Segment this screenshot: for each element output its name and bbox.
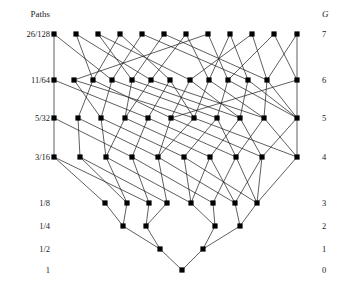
graph-edge [76,34,93,80]
graph-edge [132,34,164,80]
graph-node [167,77,172,82]
graph-edge [93,34,120,80]
graph-edge [213,157,236,203]
graph-node [232,200,237,205]
graph-edge [264,80,267,118]
graph-node [129,154,134,159]
graph-edge [235,203,240,226]
graph-edge [98,34,190,80]
graph-node [129,77,134,82]
row-label-paths-1: 11/64 [4,76,50,85]
graph-edge [146,226,160,249]
graph-node [191,115,196,120]
graph-node [157,246,162,251]
graph-node [73,31,78,36]
graph-node [77,154,82,159]
graph-edge [101,80,112,118]
graph-node [249,31,254,36]
graph-node [120,223,125,228]
graph-edge [74,80,101,118]
graph-node [98,115,103,120]
graph-node [245,77,250,82]
graph-edge [209,34,230,80]
graph-node [181,154,186,159]
graph-node [124,200,129,205]
graph-node [212,223,217,228]
graph-node [143,223,148,228]
graph-edge [217,118,236,157]
graph-edge [151,34,186,80]
graph-edge [101,118,184,157]
graph-node [237,115,242,120]
graph-edge [158,157,235,203]
graph-edge [210,118,240,157]
graph-edge [171,80,297,118]
graph-edge [132,80,240,118]
row-label-paths-3: 3/16 [4,153,50,162]
graph-edge [120,34,170,80]
graph-node [179,267,184,272]
graph-node [210,200,215,205]
graph-edge [76,34,151,80]
graph-node [164,200,169,205]
graph-node [294,115,299,120]
graph-node [187,77,192,82]
graph-edge [182,249,203,270]
graph-edge [186,34,209,80]
graph-edge [78,80,93,118]
graph-node [294,154,299,159]
graph-edge [252,34,267,80]
graph-node [109,77,114,82]
row-label-paths-6: 1/2 [4,245,50,254]
row-label-g-0: 7 [322,30,326,39]
graph-node [205,31,210,36]
edge-layer [54,34,297,270]
graph-edge [54,157,105,203]
graph-node [237,223,242,228]
graph-edge [105,203,123,226]
graph-node [103,154,108,159]
graph-edge [146,203,167,226]
graph-node [227,31,232,36]
graph-edge [184,157,257,203]
graph-node [75,115,80,120]
graph-edge [125,80,151,118]
graph-node [95,31,100,36]
graph-node [271,31,276,36]
graph-edge [146,203,149,226]
graph-edge [106,118,125,157]
graph-node [161,31,166,36]
graph-edge [142,34,248,80]
row-label-g-4: 3 [322,199,326,208]
graph-edge [54,118,132,157]
graph-edge [190,34,252,80]
graph-node [90,77,95,82]
graph-node [214,115,219,120]
graph-edge [190,80,240,118]
graph-node [188,200,193,205]
graph-edge [194,118,297,157]
graph-edge [236,118,264,157]
graph-edge [203,226,240,249]
graph-edge [80,157,127,203]
graph-edge [106,157,191,203]
row-label-g-7: 0 [322,266,326,275]
graph-edge [148,118,236,157]
graph-edge [123,203,127,226]
row-label-g-2: 5 [322,114,326,123]
row-label-g-6: 1 [322,245,326,254]
graph-node [294,31,299,36]
graph-edge [213,203,215,226]
graph-node [225,77,230,82]
graph-edge [78,118,80,157]
graph-edge [217,80,228,118]
graph-edge [160,249,182,270]
graph-node [71,77,76,82]
row-label-paths-4: 1/8 [4,199,50,208]
graph-edge [240,203,257,226]
graph-edge [101,118,106,157]
graph-edge [210,157,235,203]
lattice-graph [0,0,343,284]
graph-node [294,77,299,82]
graph-edge [158,118,171,157]
